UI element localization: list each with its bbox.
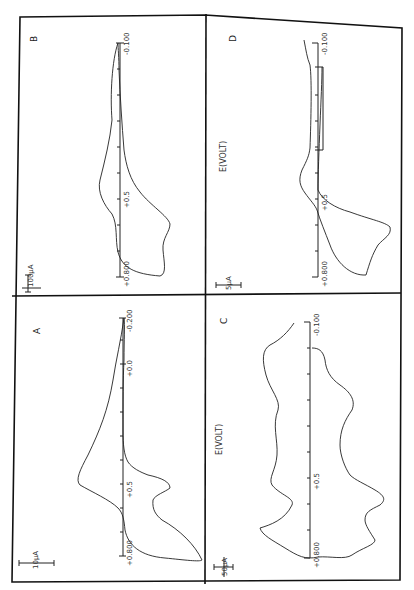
scale-bar-a: 10µA [19, 551, 54, 569]
tick-label-b-start: +0.800 [123, 261, 131, 287]
voltammogram-figure: B 100µA +0.800 +0.5 -0.100 [0, 0, 414, 590]
panel-d: D E(VOLT) 5µA +0.800 +0.5 -0.100 [216, 32, 390, 290]
axis-title-d: E(VOLT) [219, 141, 228, 172]
tick-label-d-end: -0.100 [321, 32, 329, 55]
cv-curve-a [78, 318, 202, 561]
scale-bar-label-b: 100µA [27, 264, 35, 287]
cv-curve-c [260, 323, 384, 558]
panel-c: C E(VOLT) 50µA +0.800 +0.5 -0.100 [214, 313, 384, 577]
cv-curve-b [99, 43, 170, 276]
axis-d: +0.800 +0.5 -0.100 [312, 32, 329, 287]
panel-label-d: D [228, 35, 238, 42]
axis-a: +0.800 +0.5 +0.0 -0.200 [119, 309, 134, 566]
panel-b: B 100µA +0.800 +0.5 -0.100 [22, 32, 170, 292]
scale-bar-label-c: 50µA [221, 558, 229, 576]
tick-label-c-start: +0.800 [313, 542, 321, 568]
tick-label-c-mid: +0.5 [313, 473, 321, 490]
axis-c: +0.800 +0.5 -0.100 [304, 313, 321, 568]
tick-label-a-start: +0.800 [126, 540, 134, 566]
tick-label-b-end: -0.100 [123, 32, 131, 55]
tick-label-a-zero: +0.0 [126, 360, 134, 377]
scale-bar-c: 50µA [214, 557, 233, 577]
axis-b: +0.800 +0.5 -0.100 [116, 32, 131, 287]
tick-label-b-mid: +0.5 [123, 191, 131, 208]
cv-curve-d [300, 40, 390, 275]
scale-bar-label-a: 10µA [32, 551, 40, 569]
figure-frame [12, 14, 402, 584]
tick-label-a-mid: +0.5 [126, 481, 134, 498]
panel-label-a: A [32, 327, 42, 334]
scale-bar-label-d: 5µA [225, 276, 233, 290]
tick-label-c-end: -0.100 [313, 313, 321, 336]
panel-label-c: C [219, 318, 229, 324]
tick-label-a-end: -0.200 [126, 309, 134, 332]
tick-label-d-start: +0.800 [321, 261, 329, 287]
panel-label-b: B [29, 36, 39, 42]
axis-title-c: E(VOLT) [215, 424, 224, 455]
panel-a: A 10µA +0.800 +0.5 +0.0 -0.200 [19, 309, 202, 569]
scale-bar-b: 100µA [22, 264, 41, 292]
scale-bar-d: 5µA [216, 276, 241, 290]
